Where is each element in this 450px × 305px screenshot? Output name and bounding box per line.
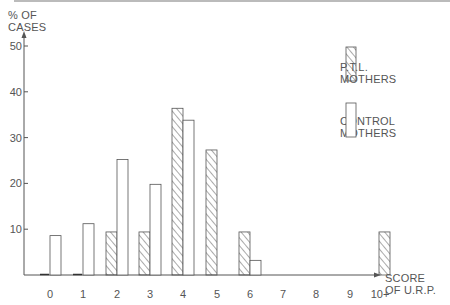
x-tick-label: 1 <box>80 288 86 300</box>
x-tick-label: 7 <box>280 288 286 300</box>
y-axis-arrow-icon <box>22 31 27 38</box>
legend <box>346 47 356 137</box>
bar-control <box>117 160 128 275</box>
x-tick-label: 10+ <box>371 288 390 300</box>
y-tick-label: 40 <box>10 86 22 98</box>
y-tick-label: 30 <box>10 132 22 144</box>
bar-ptl <box>206 150 217 275</box>
bar-ptl <box>106 232 117 275</box>
bar-ptl <box>239 232 250 275</box>
x-tick-label: 3 <box>147 288 153 300</box>
x-tick-label: 5 <box>214 288 220 300</box>
x-tick-label: 8 <box>313 288 319 300</box>
bar-control <box>183 120 194 275</box>
bars <box>40 108 390 275</box>
bar-ptl <box>172 108 183 275</box>
legend-ptl-swatch <box>346 47 356 81</box>
bar-chart: 1020304050012345678910+ <box>0 0 450 305</box>
x-tick-label: 2 <box>114 288 120 300</box>
bar-control <box>50 236 61 275</box>
axes: 1020304050012345678910+ <box>10 31 390 300</box>
bar-ptl <box>139 232 150 275</box>
y-tick-label: 50 <box>10 40 22 52</box>
bar-control <box>150 184 161 275</box>
x-tick-label: 6 <box>247 288 253 300</box>
x-tick-label: 9 <box>347 288 353 300</box>
x-tick-label: 0 <box>47 288 53 300</box>
x-tick-label: 4 <box>180 288 186 300</box>
bar-ptl <box>379 232 390 275</box>
y-tick-label: 20 <box>10 177 22 189</box>
y-tick-label: 10 <box>10 223 22 235</box>
bar-control <box>83 224 94 275</box>
bar-control <box>250 260 261 275</box>
legend-control-swatch <box>346 103 356 137</box>
